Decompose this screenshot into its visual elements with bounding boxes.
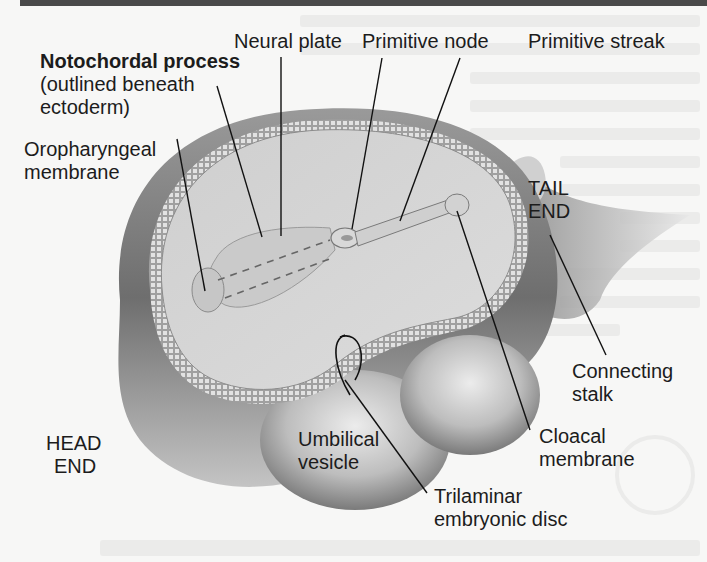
label-connecting-stalk: Connecting stalk <box>572 360 673 406</box>
notochordal-process-title: Notochordal process <box>40 50 240 72</box>
label-primitive-streak: Primitive streak <box>528 30 665 53</box>
label-cloacal-membrane: Cloacal membrane <box>539 425 635 471</box>
figure-stage: Notochordal process (outlined beneath ec… <box>0 0 707 562</box>
label-neural-plate: Neural plate <box>234 30 342 53</box>
label-trilaminar-embryonic-disc: Trilaminar embryonic disc <box>434 485 567 531</box>
label-primitive-node: Primitive node <box>362 30 489 53</box>
label-oropharyngeal-membrane: Oropharyngeal membrane <box>24 138 156 184</box>
label-umbilical-vesicle: Umbilical vesicle <box>298 428 379 474</box>
oropharyngeal-membrane-shape <box>192 268 224 312</box>
label-notochordal-process: Notochordal process (outlined beneath ec… <box>40 50 240 119</box>
label-head-end: HEAD END <box>46 432 102 478</box>
label-tail-end: TAIL END <box>528 177 570 223</box>
